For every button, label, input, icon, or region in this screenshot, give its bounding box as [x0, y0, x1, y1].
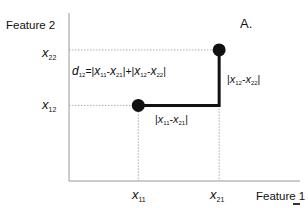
- panel-label: A.: [240, 16, 252, 31]
- manhattan-distance-diagram: Feature 2 Feature 1 A. x22 x12 x11 x21 d…: [0, 0, 308, 208]
- vertical-segment-label: |x12-x22|: [227, 73, 260, 86]
- distance-formula: d12=|x11-x21|+|x12-x22|: [72, 64, 166, 78]
- x-tick-label-x11: x11: [131, 187, 146, 203]
- x-axis-title: Feature 1: [256, 190, 305, 202]
- horizontal-segment-label: |x11-x21|: [155, 113, 188, 126]
- x-tick-label-x21: x21: [209, 187, 224, 203]
- y-tick-label-x22: x22: [41, 45, 56, 61]
- data-point-1: [132, 99, 145, 112]
- data-point-2: [213, 43, 226, 56]
- y-axis-title: Feature 2: [6, 19, 55, 31]
- edge-mark: [293, 203, 300, 205]
- y-tick-label-x12: x12: [41, 97, 56, 113]
